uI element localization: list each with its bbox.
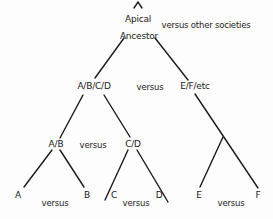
node-ancestor: Ancestor xyxy=(120,31,158,41)
node-efetc: E/F/etc xyxy=(180,81,210,91)
edge-abcd-ab xyxy=(60,95,83,138)
versus-level1: versus xyxy=(137,82,164,92)
node-cd: C/D xyxy=(125,139,141,149)
versus-ab: versus xyxy=(42,198,69,208)
edge-abcd-cd xyxy=(104,95,130,137)
edge-efetc-f xyxy=(195,94,258,188)
edge-root-abcd xyxy=(95,38,124,78)
leaf-f: F xyxy=(256,190,261,200)
edge-ab-b xyxy=(60,150,84,187)
root-comparison-label: versus other societies xyxy=(162,20,251,30)
versus-cd: versus xyxy=(123,198,150,208)
node-apical: Apical xyxy=(125,14,151,24)
edge-cd-d xyxy=(137,150,168,202)
leaf-c: C xyxy=(111,190,117,200)
versus-ef: versus xyxy=(218,198,245,208)
lineage-diagram: Apical Ancestor versus other societies A… xyxy=(0,0,273,219)
node-abcd: A/B/C/D xyxy=(77,81,110,91)
edge-ef-e xyxy=(200,137,223,187)
node-ab: A/B xyxy=(49,139,64,149)
leaf-e: E xyxy=(196,190,202,200)
leaf-a: A xyxy=(15,190,21,200)
leaf-b: B xyxy=(84,190,90,200)
edge-root-efetc xyxy=(155,38,188,80)
versus-level2: versus xyxy=(80,140,107,150)
apex-caret xyxy=(134,2,142,8)
leaf-d: D xyxy=(156,190,163,200)
edge-ab-a xyxy=(24,150,52,187)
